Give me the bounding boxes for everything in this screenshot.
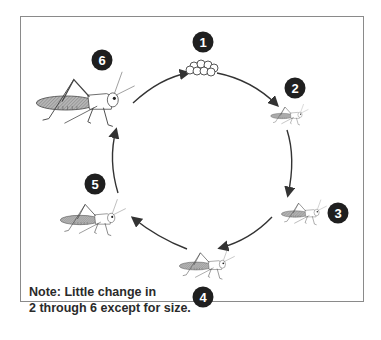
stage-badge-5: 5 (85, 174, 106, 195)
stage-badge-4: 4 (193, 287, 214, 308)
nymph-stage-5 (60, 199, 126, 235)
arrow-6-to-1 (133, 73, 188, 103)
adult-grasshopper (36, 72, 134, 127)
note-text: Note: Little change in 2 through 6 excep… (29, 284, 191, 316)
arrow-3-to-4 (220, 217, 272, 248)
nymph-stage-2 (271, 104, 309, 125)
arrow-4-to-5 (133, 218, 187, 249)
note-line-1: Note: Little change in (29, 284, 191, 300)
eggs-illustration (186, 60, 218, 76)
arrow-2-to-3 (287, 130, 292, 195)
stage-badge-1: 1 (193, 32, 214, 53)
arrow-1-to-2 (217, 73, 277, 105)
nymph-stage-3 (281, 200, 326, 225)
arrow-5-to-6 (112, 130, 118, 193)
stage-badge-2: 2 (285, 78, 306, 99)
nymph-stage-4 (179, 248, 234, 279)
stage-badge-6: 6 (92, 50, 113, 71)
stage-badge-3: 3 (328, 203, 349, 224)
note-line-2: 2 through 6 except for size. (29, 300, 191, 316)
